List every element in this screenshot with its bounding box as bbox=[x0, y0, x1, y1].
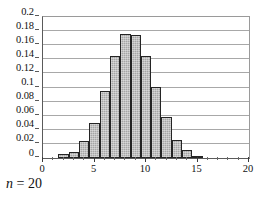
bar bbox=[131, 35, 141, 158]
x-tick-mark-minor bbox=[104, 157, 105, 160]
y-tick-label: 0.16 bbox=[16, 34, 34, 45]
bar bbox=[89, 123, 99, 158]
bar bbox=[110, 56, 120, 158]
x-tick-label: 5 bbox=[91, 163, 96, 175]
x-tick-mark-major bbox=[94, 157, 95, 162]
x-tick-mark-minor bbox=[83, 157, 84, 160]
y-axis-tick-labels: 00.020.040.060.080.10.120.140.160.180.2 bbox=[0, 16, 39, 157]
y-tick-label: 0.2 bbox=[21, 6, 34, 17]
x-tick-mark-minor bbox=[186, 157, 187, 160]
x-axis-tick-marks bbox=[42, 157, 249, 162]
caption-variable: n bbox=[6, 176, 13, 191]
caption-equals: = bbox=[13, 176, 28, 191]
bar bbox=[141, 56, 151, 158]
bar bbox=[151, 87, 161, 158]
x-tick-mark-minor bbox=[155, 157, 156, 160]
x-tick-mark-minor bbox=[227, 157, 228, 160]
y-tick-label: 0.1 bbox=[21, 77, 34, 88]
y-tick-label: 0.08 bbox=[16, 91, 34, 102]
bar bbox=[172, 140, 182, 158]
y-tick-mark bbox=[35, 86, 39, 87]
x-tick-label: 15 bbox=[191, 163, 202, 175]
y-tick-mark bbox=[35, 156, 39, 157]
x-tick-label: 20 bbox=[243, 163, 254, 175]
y-tick-label: 0.12 bbox=[16, 63, 34, 74]
y-tick-mark bbox=[35, 29, 39, 30]
y-tick-mark bbox=[35, 71, 39, 72]
y-tick-label: 0.14 bbox=[16, 49, 34, 60]
y-tick-mark bbox=[35, 57, 39, 58]
caption-value: 20 bbox=[28, 176, 42, 191]
x-tick-mark-minor bbox=[63, 157, 64, 160]
y-tick-mark bbox=[35, 142, 39, 143]
x-axis-tick-labels: 05101520 bbox=[42, 163, 249, 177]
y-tick-label: 0.02 bbox=[16, 133, 34, 144]
x-tick-mark-minor bbox=[124, 157, 125, 160]
chart-caption: n = 20 bbox=[6, 176, 42, 192]
y-tick-mark bbox=[35, 114, 39, 115]
x-tick-mark-minor bbox=[207, 157, 208, 160]
plot-area bbox=[42, 16, 250, 159]
x-tick-mark-major bbox=[248, 157, 249, 162]
bar bbox=[79, 141, 89, 158]
histogram-figure: 00.020.040.060.080.10.120.140.160.180.2 … bbox=[0, 0, 267, 199]
x-tick-mark-minor bbox=[166, 157, 167, 160]
bar-series bbox=[43, 17, 249, 158]
x-tick-mark-major bbox=[197, 157, 198, 162]
y-tick-mark bbox=[35, 43, 39, 44]
y-tick-label: 0.06 bbox=[16, 105, 34, 116]
x-tick-mark-minor bbox=[238, 157, 239, 160]
bar bbox=[161, 117, 171, 158]
y-tick-mark bbox=[35, 15, 39, 16]
x-tick-label: 0 bbox=[39, 163, 44, 175]
y-tick-label: 0.18 bbox=[16, 20, 34, 31]
x-tick-mark-minor bbox=[114, 157, 115, 160]
x-tick-mark-minor bbox=[52, 157, 53, 160]
x-tick-mark-minor bbox=[176, 157, 177, 160]
y-tick-label: 0.04 bbox=[16, 119, 34, 130]
x-tick-label: 10 bbox=[140, 163, 151, 175]
bar bbox=[120, 34, 130, 158]
y-tick-mark bbox=[35, 128, 39, 129]
bar bbox=[100, 91, 110, 158]
x-tick-mark-minor bbox=[135, 157, 136, 160]
y-tick-mark bbox=[35, 100, 39, 101]
x-tick-mark-major bbox=[42, 157, 43, 162]
x-tick-mark-major bbox=[145, 157, 146, 162]
y-tick-label: 0 bbox=[29, 147, 34, 158]
x-tick-mark-minor bbox=[73, 157, 74, 160]
x-tick-mark-minor bbox=[217, 157, 218, 160]
